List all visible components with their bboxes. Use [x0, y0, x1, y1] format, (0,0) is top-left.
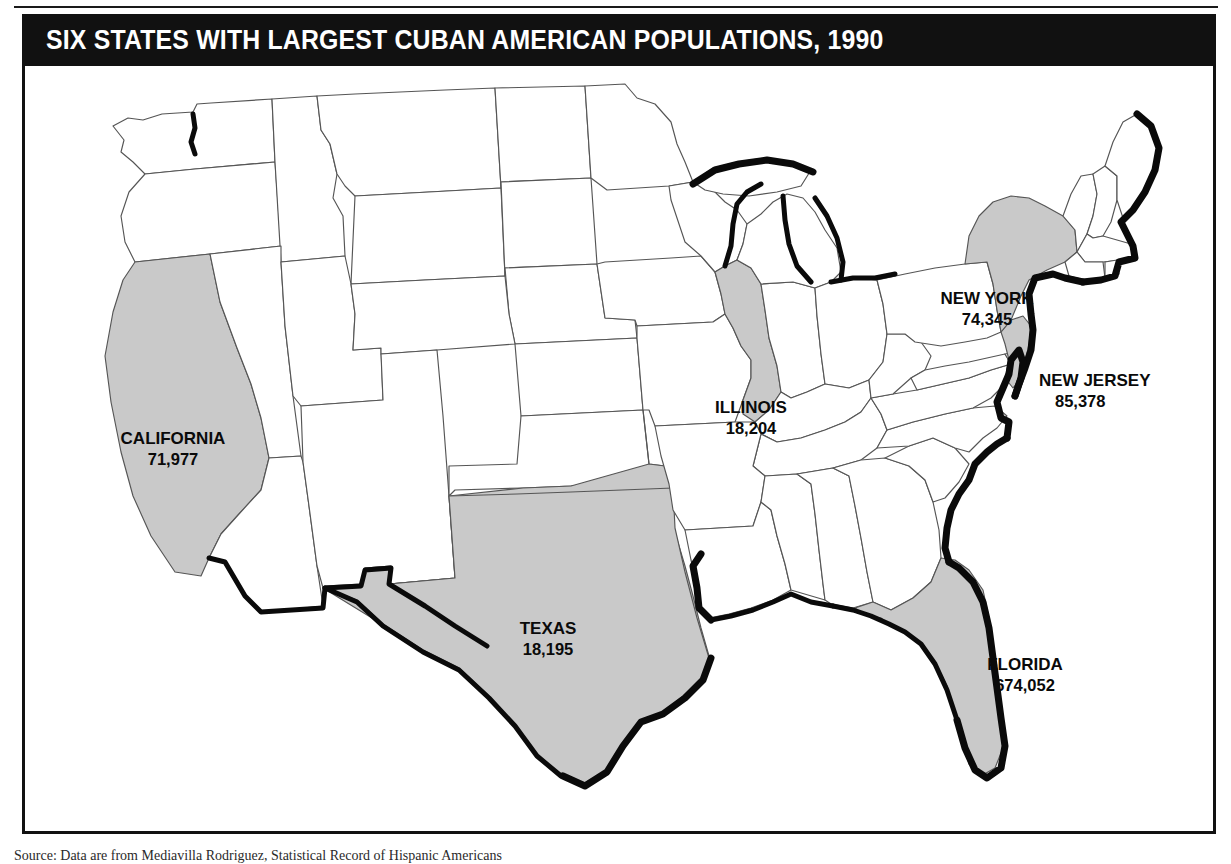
- label-new-york-value: 74,345: [962, 310, 1012, 328]
- title-bar: SIX STATES WITH LARGEST CUBAN AMERICAN P…: [22, 14, 1216, 66]
- state-oregon[interactable]: [121, 162, 281, 262]
- label-florida-name: FLORIDA: [987, 655, 1063, 674]
- label-illinois-name: ILLINOIS: [715, 398, 787, 417]
- state-colorado[interactable]: [351, 276, 515, 354]
- map-label-new-jersey: NEW JERSEY 85,378: [1039, 371, 1151, 410]
- top-rule-divider: [14, 6, 1218, 8]
- label-texas-value: 18,195: [523, 640, 573, 658]
- puget-sound-shadow: [191, 114, 195, 154]
- state-iowa[interactable]: [597, 256, 725, 326]
- figure-container: SIX STATES WITH LARGEST CUBAN AMERICAN P…: [0, 0, 1231, 864]
- state-kansas[interactable]: [515, 338, 643, 416]
- label-florida-value: 674,052: [995, 676, 1055, 694]
- map-canvas: CALIFORNIA 71,977 TEXAS 18,195 ILLINOIS …: [25, 66, 1213, 831]
- label-california-name: CALIFORNIA: [121, 429, 226, 448]
- label-new-york-name: NEW YORK: [940, 289, 1034, 308]
- state-north-dakota[interactable]: [495, 86, 591, 188]
- label-new-jersey-name: NEW JERSEY: [1039, 371, 1151, 390]
- state-wyoming[interactable]: [351, 188, 505, 284]
- label-new-jersey-value: 85,378: [1055, 392, 1105, 410]
- state-minnesota[interactable]: [585, 84, 693, 190]
- label-california-value: 71,977: [148, 450, 198, 468]
- state-montana[interactable]: [317, 88, 501, 196]
- us-map-svg: CALIFORNIA 71,977 TEXAS 18,195 ILLINOIS …: [25, 66, 1213, 831]
- source-note: Source: Data are from Mediavilla Rodrigu…: [14, 848, 1014, 864]
- state-south-dakota[interactable]: [501, 178, 597, 276]
- page-title: SIX STATES WITH LARGEST CUBAN AMERICAN P…: [46, 25, 883, 56]
- label-illinois-value: 18,204: [726, 419, 777, 437]
- label-texas-name: TEXAS: [520, 619, 577, 638]
